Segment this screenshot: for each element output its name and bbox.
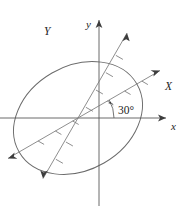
y-axis-tick <box>106 73 113 77</box>
angle-marker-group <box>108 100 114 118</box>
y-axis-tick <box>116 55 123 59</box>
x-axis-tick <box>142 81 148 85</box>
y-axis-label: y <box>85 18 91 30</box>
rotated-X-axis-label: X <box>164 80 173 92</box>
x-axis-tick <box>55 131 61 135</box>
y-axis-tick <box>56 159 63 163</box>
y-axis-tick <box>86 107 93 111</box>
x-axis-tick <box>125 91 131 94</box>
rotated-X-axis-line <box>8 71 160 159</box>
rotated-Y-axis-label: Y <box>44 25 52 37</box>
y-axis-tick <box>66 142 73 146</box>
rotated-Y-axis-line <box>43 33 127 179</box>
x-axis-label: x <box>170 120 176 132</box>
x-axis-tick <box>38 141 44 144</box>
rotated-axes-ellipse-figure: x y X Y 30° <box>0 0 191 215</box>
rotated-X-axis-group <box>8 70 160 159</box>
y-axis-group <box>96 20 103 206</box>
figure-container: x y X Y 30° <box>0 0 191 215</box>
angle-label: 30° <box>118 104 135 116</box>
rotated-Y-axis-group <box>40 33 129 179</box>
